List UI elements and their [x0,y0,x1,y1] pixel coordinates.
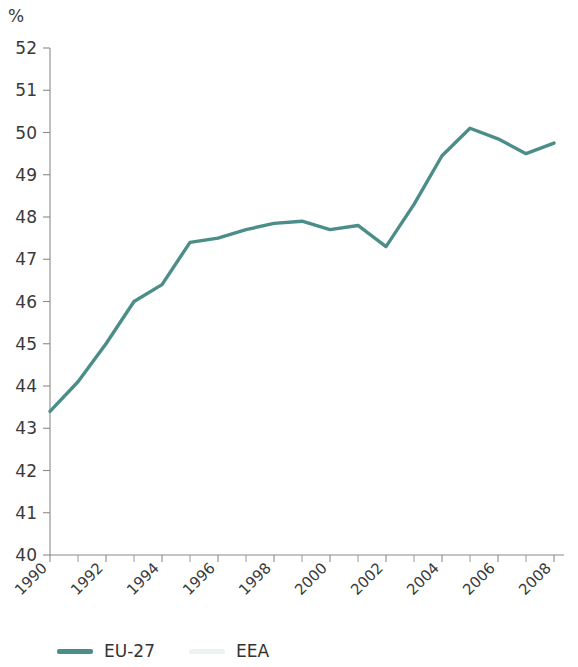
y-axis: 40414243444546474849505152 [15,38,50,565]
chart-container: % 40414243444546474849505152 19901992199… [0,0,578,667]
y-axis-tick-label: 44 [15,376,37,396]
series-layer [50,128,554,411]
x-axis-tick-label: 2004 [403,559,443,599]
y-axis-tick-label: 51 [15,80,37,100]
y-axis-tick-label: 41 [15,503,37,523]
legend-entry-eea[interactable]: EEA [189,643,269,660]
y-axis-tick-label: 48 [15,207,37,227]
legend-row: EU-27EEA [0,636,578,667]
y-axis-tick-label: 43 [15,418,37,438]
x-axis-tick-label: 2000 [291,559,331,599]
y-axis-tick-label: 50 [15,123,37,143]
legend-label: EU-27 [104,643,155,660]
x-axis-tick-label: 1994 [123,559,163,599]
x-axis-tick-label: 1996 [179,559,219,599]
y-axis-tick-label: 42 [15,461,37,481]
y-axis-tick-label: 46 [15,292,37,312]
x-axis: 1990199219941996199820002002200420062008 [11,555,564,599]
x-axis-tick-label: 1990 [11,559,51,599]
x-axis-tick-label: 1998 [235,559,275,599]
y-axis-tick-label: 47 [15,249,37,269]
y-axis-tick-label: 40 [15,545,37,565]
legend-entry-eu-27[interactable]: EU-27 [57,643,155,660]
legend-swatch-icon [189,649,225,654]
series-line-eu-27 [50,128,554,411]
legend-label: EEA [236,643,269,660]
x-axis-tick-label: 2002 [347,559,387,599]
x-axis-tick-label: 2006 [459,559,499,599]
y-axis-tick-label: 49 [15,165,37,185]
chart-legend: EU-27EEA [0,636,578,667]
y-axis-tick-label: 52 [15,38,37,58]
chart-plot-area: 40414243444546474849505152 1990199219941… [0,0,578,636]
y-axis-tick-label: 45 [15,334,37,354]
legend-swatch-icon [57,649,93,654]
x-axis-tick-label: 2008 [515,559,555,599]
x-axis-tick-label: 1992 [67,559,107,599]
